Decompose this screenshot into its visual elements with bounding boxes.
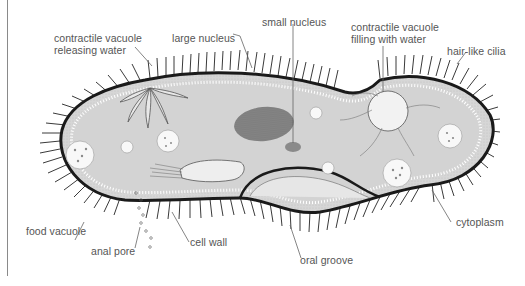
label-large-nucleus: large nucleus (172, 32, 235, 44)
label-cell-wall: cell wall (190, 236, 227, 248)
label-hair-like-cilia: hair-like cilia (447, 45, 506, 57)
label-food-vacuole: food vacuole (26, 225, 86, 237)
label-small-nucleus: small nucleus (262, 16, 326, 28)
contractile-vacuole-filling-shape (368, 91, 408, 131)
label-contractile-vacuole-releasing: contractile vacuole releasing water (54, 32, 142, 56)
label-cytoplasm: cytoplasm (456, 216, 504, 228)
small-nucleus-shape (285, 142, 301, 152)
label-contractile-vacuole-filling: contractile vacuole filling with water (351, 21, 439, 45)
label-anal-pore: anal pore (91, 245, 135, 257)
label-oral-groove: oral groove (300, 254, 353, 266)
